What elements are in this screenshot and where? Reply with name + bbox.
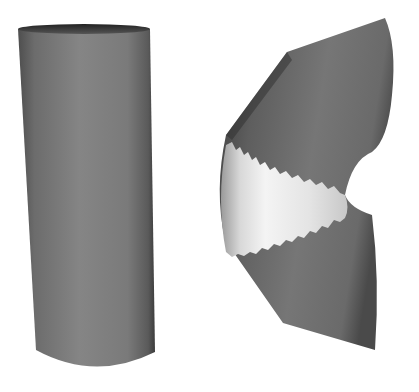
cylinder-body (18, 29, 155, 367)
render-scene: Rendered 3D shapes: a straight cylinder … (0, 0, 419, 392)
cylinder (18, 24, 155, 367)
cylinder-top-cap (18, 24, 150, 34)
bent-tube (220, 18, 394, 350)
